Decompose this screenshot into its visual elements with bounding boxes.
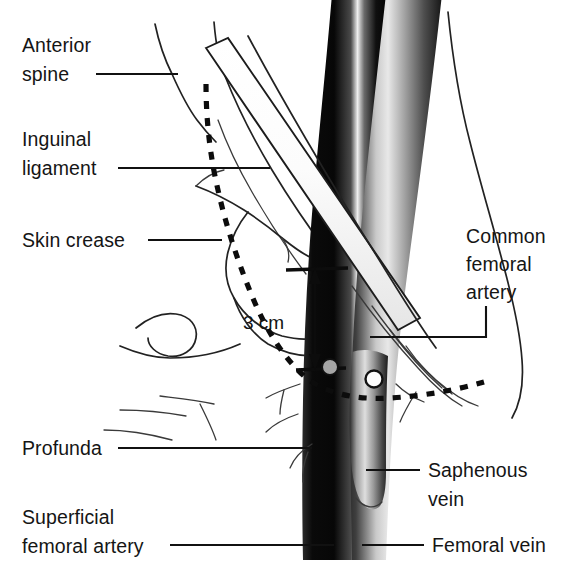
puncture-site-vein-marker bbox=[366, 371, 383, 388]
puncture-site-artery-marker bbox=[322, 359, 338, 375]
label-femoral-vein-line1: Femoral vein bbox=[432, 534, 546, 556]
label-superficial-femoral-artery-line1: Superficial bbox=[22, 506, 114, 528]
label-anterior-spine-line2: spine bbox=[22, 63, 69, 85]
label-skin-crease-line1: Skin crease bbox=[22, 229, 125, 251]
label-profunda: Profunda bbox=[22, 437, 102, 459]
label-common-femoral-artery-line1: Common bbox=[466, 225, 546, 247]
diagram-canvas: 3 cm Anterior spine Inguinal ligament Sk… bbox=[0, 0, 572, 586]
label-inguinal-ligament-line1: Inguinal bbox=[22, 128, 91, 150]
label-saphenous-vein-line1: Saphenous bbox=[428, 459, 528, 481]
label-anterior-spine-line1: Anterior bbox=[22, 34, 91, 56]
label-common-femoral-artery-line2: femoral bbox=[466, 253, 532, 275]
label-superficial-femoral-artery-line2: femoral artery bbox=[22, 535, 144, 557]
label-common-femoral-artery-line3: artery bbox=[466, 281, 517, 303]
label-saphenous-vein-line2: vein bbox=[428, 488, 464, 510]
label-inguinal-ligament-line2: ligament bbox=[22, 157, 97, 179]
dimension-label-3cm: 3 cm bbox=[243, 312, 284, 333]
label-profunda-line1: Profunda bbox=[22, 437, 102, 459]
femoral-anatomy-figure: 3 cm Anterior spine Inguinal ligament Sk… bbox=[0, 0, 572, 586]
label-femoral-vein: Femoral vein bbox=[432, 534, 546, 556]
label-skin-crease: Skin crease bbox=[22, 229, 125, 251]
dimension-upper-tick bbox=[286, 268, 348, 270]
